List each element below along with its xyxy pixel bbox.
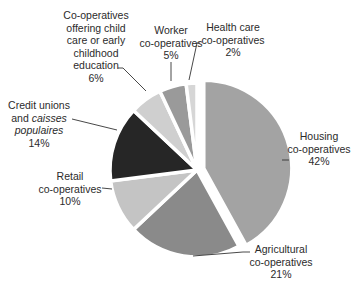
label-worker-pct: 5% <box>139 49 203 62</box>
label-health-line1: Health care <box>200 21 266 34</box>
label-retail-line1: Retail <box>36 170 104 183</box>
label-housing-line1: Housing <box>287 130 351 143</box>
label-health-pct: 2% <box>200 46 266 59</box>
label-childcare-line2: offering child <box>60 22 132 35</box>
label-childcare-pct: 6% <box>60 72 132 85</box>
label-housing: Housing co-operatives 42% <box>287 130 351 168</box>
label-health-care: Health care co-operatives 2% <box>200 21 266 59</box>
label-childcare-line1: Co-operatives <box>60 9 132 22</box>
leader-credit <box>72 119 117 130</box>
label-childcare-line4: childhood <box>60 47 132 60</box>
label-credit-line1: Credit unions <box>6 99 72 112</box>
label-retail-pct: 10% <box>36 195 104 208</box>
label-credit-pct: 14% <box>6 137 72 150</box>
label-credit-line2-and: and <box>11 112 31 124</box>
label-credit-line2: and caisses <box>6 112 72 125</box>
label-worker-line2: co-operatives <box>139 37 203 50</box>
label-worker: Worker co-operatives 5% <box>139 24 203 62</box>
label-agricultural-line2: co-operatives <box>244 256 318 269</box>
pie-slices <box>110 80 292 257</box>
label-agricultural: Agricultural co-operatives 21% <box>244 243 318 281</box>
label-credit-unions: Credit unions and caisses populaires 14% <box>6 99 72 149</box>
label-worker-line1: Worker <box>139 24 203 37</box>
label-retail-line2: co-operatives <box>36 183 104 196</box>
label-credit-line2-caisses: caisses <box>32 112 67 124</box>
label-childcare-line3: care or early <box>60 34 132 47</box>
label-childcare-line5: education <box>60 59 132 72</box>
label-housing-pct: 42% <box>287 155 351 168</box>
label-housing-line2: co-operatives <box>287 143 351 156</box>
label-childcare: Co-operatives offering child care or ear… <box>60 9 132 84</box>
label-health-line2: co-operatives <box>200 34 266 47</box>
label-agricultural-line1: Agricultural <box>244 243 318 256</box>
label-credit-line3: populaires <box>6 124 72 137</box>
label-agricultural-pct: 21% <box>244 268 318 281</box>
label-retail: Retail co-operatives 10% <box>36 170 104 208</box>
